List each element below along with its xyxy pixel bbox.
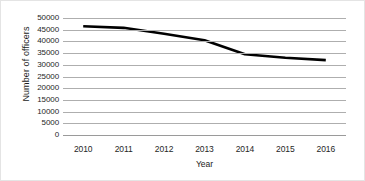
x-tick-label: 2013	[182, 143, 228, 155]
gridline-10000	[63, 112, 346, 113]
gridline-40000	[63, 41, 346, 42]
y-tick-label: 5000	[23, 118, 59, 128]
gridline-0	[63, 135, 346, 136]
y-tick-label: 40000	[23, 36, 59, 46]
y-tick-label: 45000	[23, 25, 59, 35]
y-tick-label: 50000	[23, 13, 59, 23]
x-axis-tick-labels: 2010201120122013201420152016	[63, 143, 346, 157]
line-chart: Number of officers 500004500040000350003…	[0, 0, 365, 181]
x-tick-label: 2012	[141, 143, 187, 155]
y-tick-label: 20000	[23, 83, 59, 93]
y-tick-label: 35000	[23, 48, 59, 58]
x-tick-label: 2014	[222, 143, 268, 155]
gridline-15000	[63, 100, 346, 101]
y-axis-tick-labels: 5000045000400003500030000250002000015000…	[23, 12, 59, 140]
x-tick-label: 2010	[60, 143, 106, 155]
plot-area	[63, 18, 346, 135]
gridline-45000	[63, 30, 346, 31]
x-tick-label: 2016	[303, 143, 349, 155]
gridline-25000	[63, 77, 346, 78]
gridline-35000	[63, 53, 346, 54]
x-axis-title: Year	[63, 158, 346, 170]
y-tick-label: 25000	[23, 72, 59, 82]
y-tick-label: 15000	[23, 95, 59, 105]
x-tick-label: 2011	[101, 143, 147, 155]
x-tick-label: 2015	[262, 143, 308, 155]
gridline-5000	[63, 123, 346, 124]
gridline-20000	[63, 88, 346, 89]
gridline-30000	[63, 65, 346, 66]
y-tick-label: 10000	[23, 107, 59, 117]
y-tick-label: 0	[23, 130, 59, 140]
gridline-50000	[63, 18, 346, 19]
y-tick-label: 30000	[23, 60, 59, 70]
